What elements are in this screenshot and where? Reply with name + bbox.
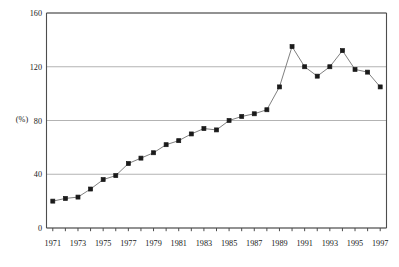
y-tick-label-0: 0 — [38, 224, 42, 233]
data-point-1996 — [366, 70, 370, 74]
data-point-1977 — [126, 162, 130, 166]
x-tick-label-1979: 1979 — [145, 239, 161, 248]
x-tick-label-1985: 1985 — [221, 239, 237, 248]
y-tick-label-40: 40 — [34, 170, 42, 179]
data-point-1982 — [189, 132, 193, 136]
data-point-1975 — [101, 178, 105, 182]
data-point-1987 — [252, 112, 256, 116]
data-point-1988 — [265, 108, 269, 112]
x-tick-label-1971: 1971 — [45, 239, 61, 248]
data-point-1984 — [215, 128, 219, 132]
x-tick-label-1983: 1983 — [196, 239, 212, 248]
x-tick-label-1973: 1973 — [70, 239, 86, 248]
x-tick-label-1987: 1987 — [246, 239, 262, 248]
data-point-1991 — [303, 65, 307, 69]
y-axis-unit-label: (%) — [16, 115, 29, 124]
y-tick-label-160: 160 — [30, 9, 42, 18]
chart-canvas: 04080120160 1971197319751977197919811983… — [0, 0, 399, 267]
data-point-1980 — [164, 143, 168, 147]
data-point-1985 — [227, 119, 231, 123]
x-tick-label-1997: 1997 — [372, 239, 388, 248]
data-point-1989 — [277, 85, 281, 89]
data-point-1971 — [51, 199, 55, 203]
data-point-1973 — [76, 195, 80, 199]
data-point-1993 — [328, 65, 332, 69]
data-point-1990 — [290, 45, 294, 49]
x-tick-label-1995: 1995 — [347, 239, 363, 248]
x-tick-label-1977: 1977 — [120, 239, 136, 248]
line-chart: 04080120160 1971197319751977197919811983… — [0, 0, 399, 267]
data-point-1997 — [378, 85, 382, 89]
y-tick-label-80: 80 — [34, 117, 42, 126]
data-point-1974 — [89, 187, 93, 191]
unit-label-percent: (%) — [16, 115, 29, 124]
data-point-1986 — [240, 114, 244, 118]
x-tick-label-1993: 1993 — [322, 239, 338, 248]
data-point-1995 — [353, 67, 357, 71]
data-point-1976 — [114, 174, 118, 178]
data-point-1972 — [63, 196, 67, 200]
y-tick-label-120: 120 — [30, 63, 42, 72]
gridlines-group — [47, 13, 387, 228]
y-axis-labels: 04080120160 — [30, 9, 42, 233]
x-tick-label-1981: 1981 — [171, 239, 187, 248]
x-tick-label-1975: 1975 — [95, 239, 111, 248]
data-point-1981 — [177, 139, 181, 143]
data-point-1983 — [202, 127, 206, 131]
data-point-1978 — [139, 156, 143, 160]
data-point-1992 — [315, 74, 319, 78]
data-markers-group — [51, 45, 382, 204]
x-tick-label-1991: 1991 — [296, 239, 312, 248]
data-point-1994 — [340, 49, 344, 53]
x-axis-labels: 1971197319751977197919811983198519871989… — [45, 239, 389, 248]
x-tick-label-1989: 1989 — [271, 239, 287, 248]
data-point-1979 — [152, 151, 156, 155]
